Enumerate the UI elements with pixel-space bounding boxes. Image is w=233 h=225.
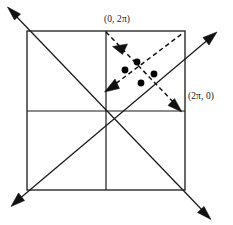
diagonal-sw-ne-line [18,38,210,200]
dashed-sw-ne-line [110,33,183,88]
solid-diagonal-nw-se [8,7,212,220]
arrow-down-right-icon [198,207,212,220]
dot-lower [138,80,145,87]
dashed-arrow-down-right-icon [168,99,182,113]
dashed-arrow-down-left-lower-icon [105,79,120,92]
dot-right [151,71,158,78]
dot-upper [134,59,141,66]
diagonal-nw-se-line [14,14,204,212]
label-two-pi-origin: (2π, 0) [188,91,214,101]
figure-container: (0, 2π) (2π, 0) [0,0,233,225]
dashed-arrow-down-left-upper-icon [113,44,128,55]
solid-diagonal-sw-ne [11,32,217,207]
label-origin-two-pi: (0, 2π) [104,14,130,24]
arrow-up-right-icon [203,32,217,45]
dot-left [122,67,129,74]
diagram-canvas [0,0,233,225]
lattice-points [122,59,158,87]
arrow-down-left-icon [11,193,25,207]
